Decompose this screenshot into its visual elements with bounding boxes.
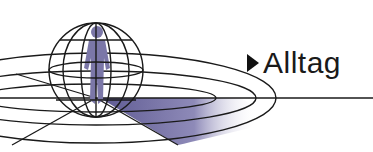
label-text: Alltag bbox=[263, 48, 341, 78]
wireframe-globe bbox=[49, 23, 143, 117]
human-figure bbox=[84, 26, 110, 104]
alltag-logo: Alltag bbox=[0, 0, 373, 152]
alltag-label: Alltag bbox=[247, 48, 341, 78]
triangle-right-icon bbox=[247, 54, 259, 72]
